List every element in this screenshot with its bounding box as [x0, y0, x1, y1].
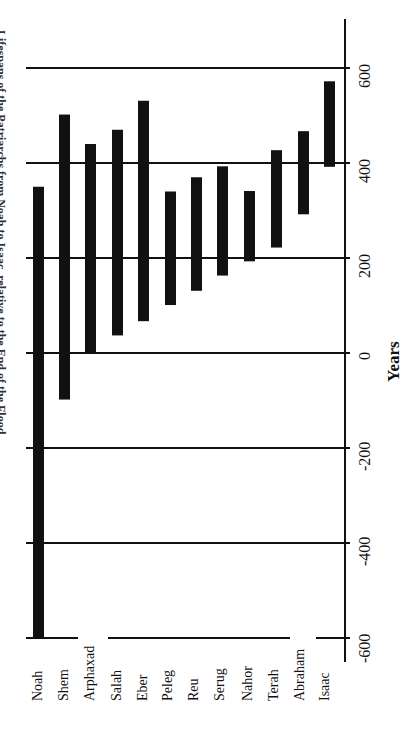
- category-label-eber: Eber: [135, 675, 151, 701]
- bar-salah: [112, 130, 123, 336]
- category-label-terah: Terah: [266, 669, 282, 701]
- category-label-arphaxad: Arphaxad: [82, 646, 98, 701]
- category-label-nahor: Nahor: [240, 666, 256, 701]
- tick-label-neg400: -400: [356, 537, 374, 566]
- tick-label-0: 0: [356, 352, 374, 360]
- tick-label-neg200: -200: [356, 442, 374, 471]
- category-label-salah: Salah: [109, 670, 125, 701]
- bar-noah: [33, 187, 44, 638]
- category-label-abraham: Abraham: [292, 649, 308, 701]
- bar-isaac: [324, 81, 335, 167]
- bar-abraham: [298, 131, 309, 214]
- category-label-isaac: Isaac: [317, 672, 333, 701]
- bar-serug: [217, 166, 228, 275]
- value-axis: [345, 19, 350, 662]
- bar-shem: [59, 115, 70, 400]
- bar-arphaxad: [85, 144, 96, 352]
- bar-peleg: [165, 192, 176, 306]
- category-label-serug: Serug: [212, 668, 228, 701]
- bars: [33, 81, 335, 638]
- axis-title-years: Years: [384, 341, 404, 382]
- tick-label-neg600: -600: [356, 634, 374, 663]
- tick-label-600: 600: [356, 64, 374, 88]
- bar-reu: [191, 177, 202, 291]
- bar-nahor: [244, 191, 255, 261]
- gridlines: [26, 68, 345, 638]
- category-label-reu: Reu: [186, 678, 202, 701]
- bar-terah: [271, 150, 282, 247]
- tick-label-400: 400: [356, 159, 374, 183]
- category-label-peleg: Peleg: [160, 670, 176, 701]
- tick-label-200: 200: [356, 254, 374, 278]
- category-label-noah: Noah: [30, 671, 46, 701]
- bar-eber: [138, 101, 149, 321]
- lifespan-chart: [0, 0, 419, 737]
- category-label-shem: Shem: [56, 669, 72, 701]
